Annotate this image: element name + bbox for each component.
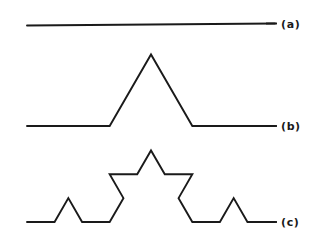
figure-root: (a) (b) (c) [0, 0, 322, 247]
panel-a-group: (a) [27, 18, 300, 31]
koch-curve-iteration-2 [27, 150, 275, 222]
panel-b-group: (b) [27, 54, 301, 133]
panel-label-a: (a) [281, 18, 300, 31]
koch-curve-iteration-1 [27, 54, 275, 126]
panel-label-c: (c) [281, 216, 299, 229]
panel-label-b: (b) [281, 120, 301, 133]
koch-curve-iteration-0 [27, 24, 275, 26]
panel-c-group: (c) [27, 150, 299, 229]
koch-construction-figure: (a) (b) (c) [0, 0, 322, 247]
